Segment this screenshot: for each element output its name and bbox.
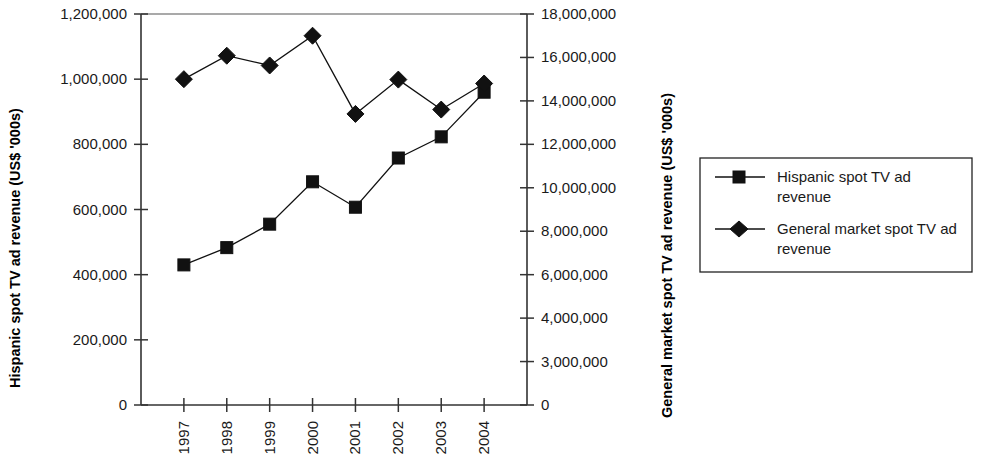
x-axis-ticks: 19971998199920002001200220032004 bbox=[175, 398, 492, 454]
diamond-marker bbox=[433, 101, 450, 118]
square-marker bbox=[221, 242, 233, 254]
legend-label-hispanic-line2: revenue bbox=[777, 188, 831, 205]
square-marker bbox=[435, 131, 447, 143]
x-tick-label: 2002 bbox=[389, 421, 406, 454]
x-tick-label: 2000 bbox=[304, 421, 321, 454]
chart-figure: Hispanic spot TV ad revenue (US$ '000s) … bbox=[0, 0, 990, 463]
legend-label-general-market-line2: revenue bbox=[777, 240, 831, 257]
right-tick-label: 12,000,000 bbox=[541, 135, 616, 152]
square-marker bbox=[307, 176, 319, 188]
series-general-market bbox=[175, 27, 492, 122]
square-marker bbox=[178, 259, 190, 271]
left-tick-label: 0 bbox=[119, 396, 127, 413]
right-tick-label: 14,000,000 bbox=[541, 92, 616, 109]
square-marker bbox=[733, 171, 745, 183]
x-tick-label: 2004 bbox=[475, 421, 492, 454]
diamond-marker bbox=[175, 71, 192, 88]
legend-label-general-market-line1: General market spot TV ad bbox=[777, 220, 957, 237]
diamond-marker bbox=[261, 57, 278, 74]
x-tick-label: 1997 bbox=[175, 421, 192, 454]
chart-legend: Hispanic spot TV ad revenue General mark… bbox=[700, 158, 972, 272]
left-tick-label: 1,000,000 bbox=[60, 70, 127, 87]
diamond-marker bbox=[347, 105, 364, 122]
square-marker bbox=[349, 201, 361, 213]
series-layer bbox=[175, 27, 492, 271]
x-tick-label: 1999 bbox=[261, 421, 278, 454]
left-axis-title: Hispanic spot TV ad revenue (US$ '000s) bbox=[7, 108, 23, 388]
x-tick-label: 2003 bbox=[432, 421, 449, 454]
left-tick-label: 600,000 bbox=[73, 201, 127, 218]
left-tick-label: 400,000 bbox=[73, 266, 127, 283]
diamond-marker bbox=[218, 47, 235, 64]
legend-label-hispanic-line1: Hispanic spot TV ad bbox=[777, 168, 911, 185]
series-line bbox=[184, 36, 484, 114]
square-marker bbox=[392, 152, 404, 164]
right-axis-ticks: 03,000,0004,000,0006,000,0008,000,00010,… bbox=[520, 5, 616, 413]
right-tick-label: 4,000,000 bbox=[541, 309, 608, 326]
diamond-marker bbox=[304, 27, 321, 44]
series-line bbox=[184, 92, 484, 265]
left-axis-ticks: 0200,000400,000600,000800,0001,000,0001,… bbox=[60, 5, 148, 413]
line-chart: Hispanic spot TV ad revenue (US$ '000s) … bbox=[0, 0, 990, 463]
left-tick-label: 800,000 bbox=[73, 135, 127, 152]
x-tick-label: 2001 bbox=[346, 421, 363, 454]
square-marker bbox=[264, 218, 276, 230]
right-axis-title: General market spot TV ad revenue (US$ '… bbox=[659, 93, 675, 418]
right-tick-label: 18,000,000 bbox=[541, 5, 616, 22]
right-tick-label: 6,000,000 bbox=[541, 266, 608, 283]
right-tick-label: 10,000,000 bbox=[541, 179, 616, 196]
left-tick-label: 200,000 bbox=[73, 331, 127, 348]
diamond-marker bbox=[390, 71, 407, 88]
right-tick-label: 16,000,000 bbox=[541, 48, 616, 65]
right-tick-label: 0 bbox=[541, 396, 549, 413]
x-tick-label: 1998 bbox=[218, 421, 235, 454]
right-tick-label: 8,000,000 bbox=[541, 222, 608, 239]
left-tick-label: 1,200,000 bbox=[60, 5, 127, 22]
right-tick-label: 3,000,000 bbox=[541, 353, 608, 370]
